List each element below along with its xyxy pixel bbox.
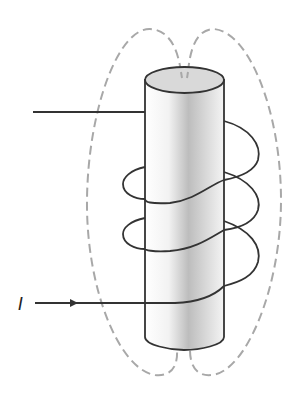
current-label: I: [18, 294, 23, 314]
core-top: [145, 67, 224, 93]
iron-core: [145, 67, 224, 350]
coil-back: [224, 121, 259, 286]
electromagnet-diagram: [0, 0, 308, 403]
current-arrow-icon: [70, 299, 78, 307]
